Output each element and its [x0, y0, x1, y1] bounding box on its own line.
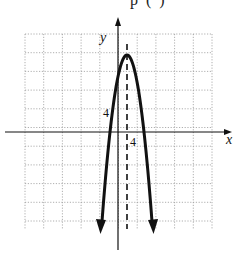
parabola-graph: [0, 0, 241, 257]
y-axis-label: y: [100, 30, 106, 46]
y-tick-label-4: 4: [103, 106, 109, 121]
x-axis-label: x: [226, 132, 232, 148]
axes: [5, 17, 232, 250]
x-tick-label-4: 4: [130, 135, 136, 150]
